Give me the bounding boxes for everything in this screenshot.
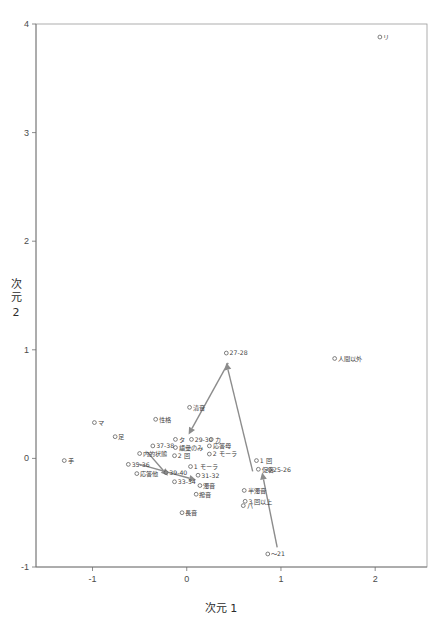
data-point: 撥音 — [194, 491, 211, 499]
point-marker-circle-icon — [196, 473, 200, 477]
data-point: ～21 — [266, 550, 285, 557]
data-point: 31-32 — [196, 472, 219, 479]
data-point: 促音 — [256, 466, 273, 474]
point-label: タ — [179, 436, 185, 443]
y-tick-label: 1 — [24, 345, 29, 355]
data-point: 内的状態 — [138, 450, 167, 458]
y-tick-label: 3 — [24, 128, 29, 138]
point-label: 29-30 — [195, 436, 213, 443]
point-label: 促音 — [262, 466, 274, 474]
point-marker-circle-icon — [113, 435, 117, 439]
point-label: 25-26 — [273, 466, 291, 473]
point-label: 語彙のみ — [179, 444, 203, 452]
data-point: 27-28 — [224, 349, 247, 356]
point-marker-circle-icon — [333, 357, 337, 361]
point-label: 31-32 — [201, 472, 219, 479]
point-label: 33-34 — [178, 478, 196, 485]
data-point: 性格 — [154, 416, 172, 424]
point-marker-circle-icon — [174, 437, 178, 441]
y-tick-label: 4 — [24, 19, 29, 29]
data-point: 清音 — [188, 404, 205, 412]
data-point: 35-36 — [126, 461, 149, 468]
point-label: 手 — [68, 457, 74, 465]
data-point: リ — [378, 33, 389, 40]
data-point: 手 — [62, 457, 73, 465]
point-marker-circle-icon — [207, 452, 211, 456]
data-point: パ — [241, 502, 252, 509]
point-label: 濁音 — [203, 482, 215, 490]
data-point: 足 — [113, 433, 124, 441]
point-marker-circle-icon — [62, 459, 66, 463]
point-marker-circle-icon — [242, 489, 246, 493]
y-tick-label: 0 — [24, 453, 29, 463]
point-label: 27-28 — [230, 349, 248, 356]
point-label: ～21 — [271, 550, 285, 557]
x-tick-label: 0 — [184, 574, 189, 584]
data-points: リ人間以外27-28清音性格マ足タ29-30カ応答母語彙のみ37-38内的状態2… — [62, 33, 389, 557]
point-marker-circle-icon — [189, 465, 193, 469]
x-tick-label: 2 — [373, 574, 378, 584]
point-marker-circle-icon — [126, 462, 130, 466]
point-marker-circle-icon — [266, 552, 270, 556]
point-marker-circle-icon — [151, 444, 155, 448]
y-axis-title-line1: 次 — [11, 277, 22, 291]
data-point: 1 回 — [255, 457, 272, 465]
point-label: 足 — [118, 433, 124, 441]
data-point: 長音 — [180, 509, 197, 517]
point-marker-circle-icon — [198, 484, 202, 488]
data-point: 33-34 — [173, 478, 196, 485]
point-label: 2 モーラ — [213, 450, 237, 457]
data-point: タ — [174, 436, 185, 443]
data-point: 37-38 — [151, 442, 174, 449]
point-label: リ — [383, 33, 389, 40]
point-marker-circle-icon — [194, 492, 198, 496]
y-tick-label: -1 — [21, 562, 29, 572]
data-point: 濁音 — [198, 482, 215, 490]
data-point: 語彙のみ — [174, 444, 203, 452]
point-marker-circle-icon — [255, 459, 259, 463]
point-marker-circle-icon — [173, 454, 177, 458]
point-label: パ — [247, 502, 253, 509]
data-point: マ — [93, 419, 104, 426]
point-label: 人間以外 — [338, 355, 362, 363]
x-tick-label: 1 — [278, 574, 283, 584]
point-label: 35-36 — [132, 461, 150, 468]
point-marker-circle-icon — [135, 472, 139, 476]
data-point: 半濁音 — [242, 487, 265, 495]
data-point: 応答他 — [135, 470, 158, 478]
point-label: 1 回 — [260, 457, 272, 465]
point-marker-circle-icon — [256, 467, 260, 471]
axis-ticks — [32, 24, 375, 571]
y-axis-title-line3: 2 — [13, 306, 20, 319]
point-marker-circle-icon — [138, 452, 142, 456]
y-axis-title-line2: 元 — [11, 291, 22, 304]
point-label: 長音 — [185, 509, 197, 517]
point-marker-circle-icon — [180, 511, 184, 515]
arrow-to-cluster — [189, 363, 229, 435]
point-label: 39-40 — [169, 469, 187, 476]
x-tick-label: -1 — [89, 574, 97, 584]
point-label: 応答母 — [213, 442, 231, 450]
point-marker-circle-icon — [224, 351, 228, 355]
point-label: 半濁音 — [248, 487, 266, 495]
plot-canvas: -101234-1012 リ人間以外27-28清音性格マ足タ29-30カ応答母語… — [0, 0, 443, 626]
axis-titles: 次元 1 次 元 2 — [11, 277, 238, 615]
arrow-to-25-26 — [260, 473, 277, 548]
data-point: 応答母 — [207, 442, 230, 450]
y-tick-label: 2 — [24, 236, 29, 246]
point-label: 性格 — [159, 416, 172, 424]
point-label: マ — [98, 419, 104, 426]
scatter-plot-figure: -101234-1012 リ人間以外27-28清音性格マ足タ29-30カ応答母語… — [0, 0, 443, 626]
data-point: 人間以外 — [333, 355, 362, 363]
point-marker-circle-icon — [241, 504, 245, 508]
axis-tick-labels: -101234-1012 — [21, 19, 378, 584]
point-label: 撥音 — [199, 491, 211, 499]
point-marker-circle-icon — [207, 444, 211, 448]
point-marker-circle-icon — [190, 437, 194, 441]
data-point: 1 モーラ — [189, 463, 218, 470]
point-marker-circle-icon — [173, 480, 177, 484]
point-label: 応答他 — [140, 470, 158, 478]
point-marker-circle-icon — [93, 421, 97, 425]
point-marker-circle-icon — [188, 405, 192, 409]
x-axis-title: 次元 1 — [205, 601, 238, 615]
